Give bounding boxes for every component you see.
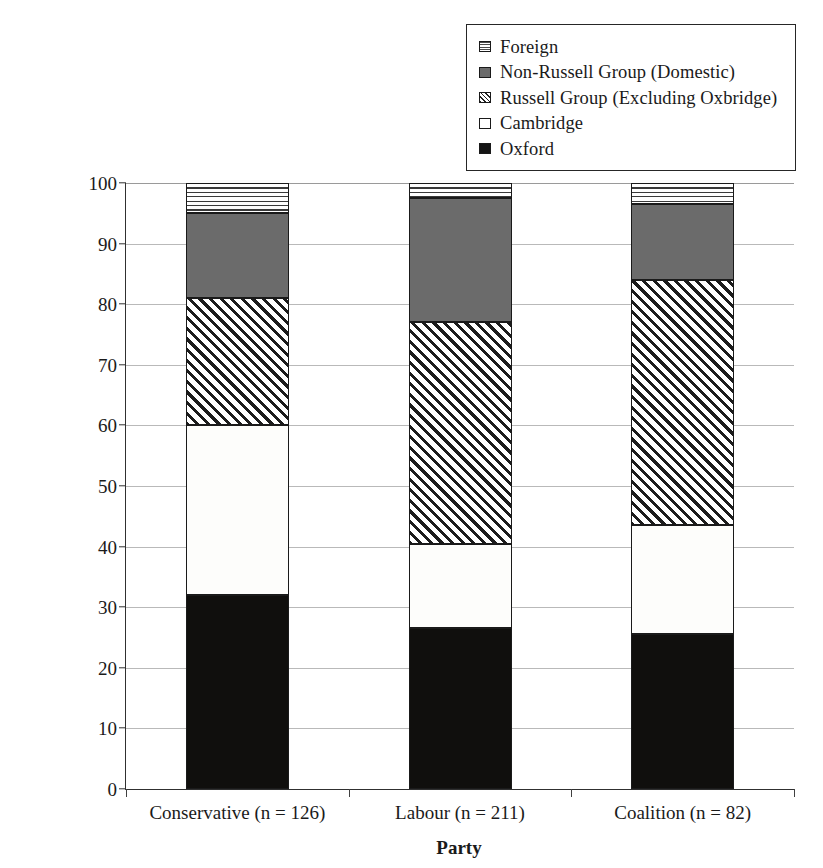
y-tick-label-40: 40: [98, 537, 117, 556]
bar-coalition-n-82[interactable]: [631, 183, 734, 789]
legend-item-cambridge: Cambridge: [479, 111, 785, 137]
y-tick-mark-70: [119, 364, 126, 365]
bar-segment-foreign[interactable]: [631, 183, 734, 204]
legend-swatch-non-russell-icon: [479, 67, 491, 78]
bar-segment-russell-group-excluding-oxbridge[interactable]: [631, 280, 734, 525]
legend-swatch-oxford-icon: [479, 143, 491, 154]
legend-label-foreign: Foreign: [500, 38, 558, 57]
x-tick-mark-2: [571, 789, 572, 797]
legend-label-non-russell-group-domestic: Non-Russell Group (Domestic): [500, 63, 735, 82]
y-tick-mark-40: [119, 546, 126, 547]
bar-segment-non-russell-group-domestic[interactable]: [631, 204, 734, 280]
chart-legend: Foreign Non-Russell Group (Domestic) Rus…: [466, 24, 796, 171]
legend-label-oxford: Oxford: [500, 140, 554, 159]
bar-segment-oxford[interactable]: [409, 628, 512, 789]
plot-area: 0102030405060708090100Conservative (n = …: [125, 183, 794, 790]
bar-segment-cambridge[interactable]: [631, 525, 734, 634]
y-tick-mark-90: [119, 243, 126, 244]
x-tick-mark-end-1: [794, 789, 795, 797]
x-category-label-conservative-n-126: Conservative (n = 126): [149, 803, 325, 822]
y-tick-label-60: 60: [98, 416, 117, 435]
y-tick-mark-30: [119, 606, 126, 607]
bar-labour-n-211[interactable]: [409, 183, 512, 789]
bar-segment-foreign[interactable]: [186, 183, 289, 213]
legend-swatch-russell-icon: [479, 92, 491, 103]
y-tick-label-80: 80: [98, 295, 117, 314]
x-category-label-coalition-n-82: Coalition (n = 82): [614, 803, 751, 822]
x-tick-mark-end-0: [126, 789, 127, 797]
x-axis-title: Party: [125, 838, 793, 857]
y-tick-mark-0: [119, 788, 126, 789]
legend-label-russell-group-excluding-oxbridge: Russell Group (Excluding Oxbridge): [500, 89, 777, 108]
y-tick-label-20: 20: [98, 658, 117, 677]
legend-label-cambridge: Cambridge: [500, 114, 583, 133]
legend-item-oxford: Oxford: [479, 136, 785, 162]
x-tick-mark-1: [349, 789, 350, 797]
bar-segment-non-russell-group-domestic[interactable]: [186, 213, 289, 298]
bar-segment-oxford[interactable]: [186, 595, 289, 789]
y-tick-mark-50: [119, 485, 126, 486]
y-tick-mark-100: [119, 182, 126, 183]
y-tick-label-30: 30: [98, 598, 117, 617]
bar-segment-oxford[interactable]: [631, 634, 734, 789]
bar-segment-russell-group-excluding-oxbridge[interactable]: [186, 298, 289, 425]
y-tick-label-0: 0: [108, 780, 118, 799]
y-tick-label-50: 50: [98, 477, 117, 496]
y-tick-label-100: 100: [89, 174, 118, 193]
y-tick-mark-60: [119, 425, 126, 426]
legend-item-foreign: Foreign: [479, 34, 785, 60]
bar-segment-cambridge[interactable]: [409, 544, 512, 629]
legend-swatch-foreign-icon: [479, 41, 491, 52]
y-tick-mark-10: [119, 728, 126, 729]
bar-segment-cambridge[interactable]: [186, 425, 289, 595]
y-tick-label-10: 10: [98, 719, 117, 738]
y-tick-mark-20: [119, 667, 126, 668]
legend-swatch-cambridge-icon: [479, 118, 491, 129]
legend-item-non-russell-group-domestic: Non-Russell Group (Domestic): [479, 60, 785, 86]
legend-item-russell-group-excluding-oxbridge: Russell Group (Excluding Oxbridge): [479, 85, 785, 111]
x-category-label-labour-n-211: Labour (n = 211): [395, 803, 525, 822]
bar-segment-non-russell-group-domestic[interactable]: [409, 198, 512, 322]
bar-segment-foreign[interactable]: [409, 183, 512, 198]
y-tick-mark-80: [119, 303, 126, 304]
y-tick-label-90: 90: [98, 234, 117, 253]
bar-segment-russell-group-excluding-oxbridge[interactable]: [409, 322, 512, 543]
bar-conservative-n-126[interactable]: [186, 183, 289, 789]
y-tick-label-70: 70: [98, 355, 117, 374]
